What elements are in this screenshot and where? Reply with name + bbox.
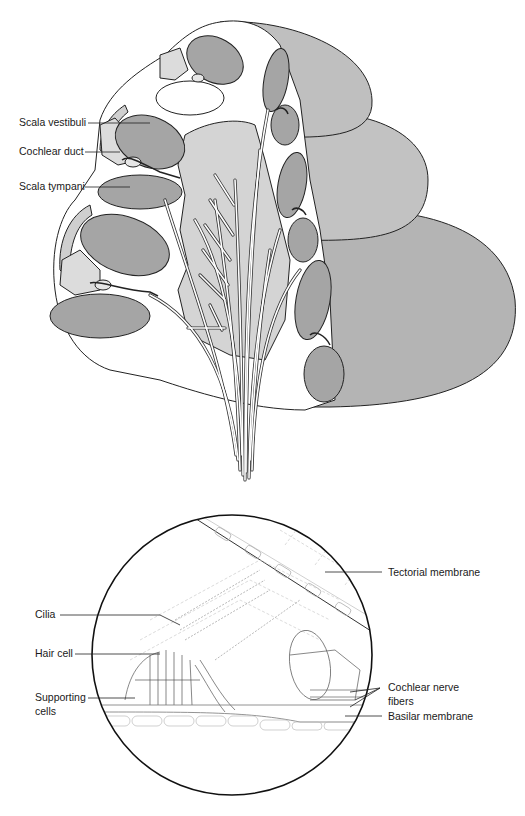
scala-tympani-right-mid (288, 218, 318, 262)
scala-tympani-lower (50, 294, 150, 338)
magnification-circle (92, 515, 372, 795)
scala-tympani-top (156, 81, 224, 115)
label-cochlear-duct: Cochlear duct (19, 145, 84, 158)
organ-of-corti-detail (100, 515, 395, 730)
label-tectorial-membrane: Tectorial membrane (388, 566, 480, 579)
label-supporting-cells-1: Supporting (35, 691, 86, 704)
bottom-leader-lines (60, 572, 382, 716)
cochlea-section (50, 21, 515, 410)
label-cochlear-nerve-fibers-2: fibers (388, 695, 414, 708)
label-cilia: Cilia (35, 608, 55, 621)
label-cochlear-nerve-fibers-1: Cochlear nerve (388, 681, 459, 694)
label-hair-cell: Hair cell (35, 647, 73, 660)
label-supporting-cells-2: cells (35, 705, 56, 718)
label-scala-vestibuli: Scala vestibuli (19, 116, 86, 129)
scala-tympani-upper (98, 175, 182, 209)
scala-tympani-right-top (271, 105, 299, 145)
label-basilar-membrane: Basilar membrane (388, 710, 473, 723)
scala-tympani-right-low (304, 346, 344, 402)
label-scala-tympani: Scala tympani (19, 180, 85, 193)
